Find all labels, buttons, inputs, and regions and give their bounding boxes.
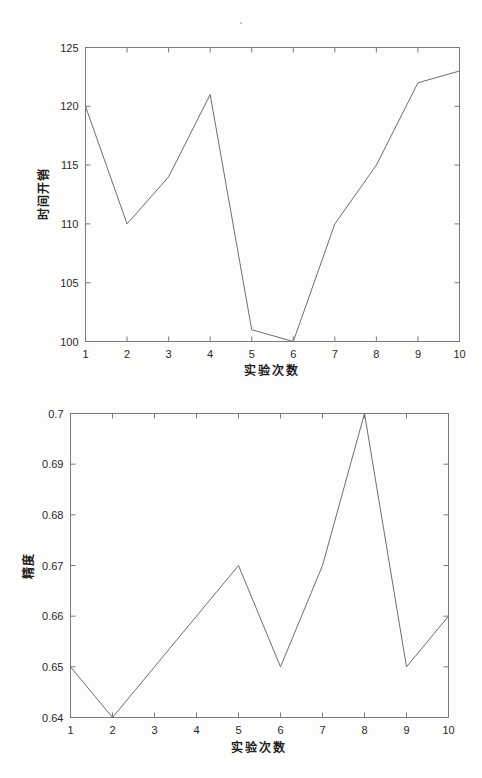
- x-tick-label: 8: [361, 724, 367, 736]
- time-overhead-plot: 100105110115120125 12345678910 实验次数 时间开销: [0, 0, 482, 390]
- y-tick-label: 0.68: [42, 509, 63, 521]
- x-tick-label: 8: [373, 348, 379, 360]
- x-tick-label: 7: [319, 724, 325, 736]
- y-axis-label: 时间开销: [36, 168, 51, 220]
- x-tick-label: 9: [403, 724, 409, 736]
- x-tick-label: 3: [151, 724, 157, 736]
- y-axis-tick-labels: 0.640.650.660.670.680.690.7: [42, 408, 63, 724]
- y-tick-label: 125: [60, 42, 78, 54]
- x-tick-label: 7: [332, 348, 338, 360]
- accuracy-figure: 0.640.650.660.670.680.690.7 12345678910 …: [0, 390, 482, 778]
- y-tick-label: 0.67: [42, 560, 63, 572]
- y-tick-label: 0.69: [42, 458, 63, 470]
- x-axis-tickmarks: [71, 414, 449, 718]
- plot-frame: [71, 414, 449, 718]
- x-tick-label: 4: [207, 348, 213, 360]
- plot-frame: [86, 48, 460, 342]
- x-axis-label: 实验次数: [231, 740, 287, 755]
- y-tick-label: 0.65: [42, 661, 63, 673]
- y-tick-label: 0.66: [42, 610, 63, 622]
- accuracy-plot: 0.640.650.660.670.680.690.7 12345678910 …: [0, 390, 482, 778]
- x-tick-label: 6: [277, 724, 283, 736]
- y-axis-tickmarks: [71, 414, 449, 718]
- time-overhead-figure: 100105110115120125 12345678910 实验次数 时间开销: [0, 0, 482, 390]
- y-axis-label: 精度: [21, 553, 36, 579]
- x-tick-label: 5: [235, 724, 241, 736]
- y-tick-label: 105: [60, 277, 78, 289]
- x-tick-label: 4: [193, 724, 199, 736]
- data-series-line: [71, 414, 449, 718]
- y-axis-tickmarks: [86, 48, 460, 342]
- x-tick-label: 1: [67, 724, 73, 736]
- y-tick-label: 100: [60, 336, 78, 348]
- x-tick-label: 2: [124, 348, 130, 360]
- y-tick-label: 0.64: [42, 712, 63, 724]
- x-tick-label: 3: [166, 348, 172, 360]
- data-series-line: [86, 71, 460, 341]
- x-tick-label: 9: [415, 348, 421, 360]
- y-tick-label: 115: [61, 159, 79, 171]
- x-axis-tickmarks: [86, 48, 460, 342]
- y-axis-tick-labels: 100105110115120125: [60, 42, 78, 348]
- scan-speck: [240, 22, 242, 24]
- x-tick-label: 10: [453, 348, 465, 360]
- x-tick-label: 1: [82, 348, 88, 360]
- y-tick-label: 0.7: [48, 408, 63, 420]
- y-tick-label: 120: [60, 100, 78, 112]
- x-axis-tick-labels: 12345678910: [82, 348, 465, 360]
- x-axis-label: 实验次数: [244, 363, 300, 378]
- x-tick-label: 2: [109, 724, 115, 736]
- x-tick-label: 6: [290, 348, 296, 360]
- x-tick-label: 5: [249, 348, 255, 360]
- scanned-page: 100105110115120125 12345678910 实验次数 时间开销…: [0, 0, 482, 778]
- y-tick-label: 110: [61, 218, 79, 230]
- x-axis-tick-labels: 12345678910: [67, 724, 454, 736]
- x-tick-label: 10: [442, 724, 454, 736]
